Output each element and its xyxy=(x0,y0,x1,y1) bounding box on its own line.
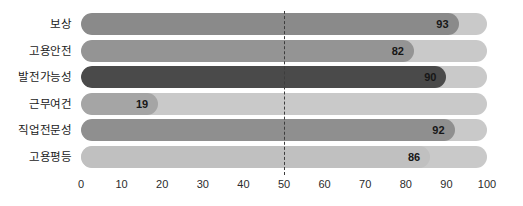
bar-fill xyxy=(81,66,446,88)
bar-rows-group: 보상93고용안전82발전가능성90근무여건19직업전문성92고용평등86 xyxy=(0,13,523,173)
x-tick-label: 20 xyxy=(142,176,182,192)
x-tick-label: 60 xyxy=(305,176,345,192)
x-tick-label: 10 xyxy=(102,176,142,192)
x-tick-label: 100 xyxy=(467,176,507,192)
x-tick-label: 70 xyxy=(345,176,385,192)
x-tick-label: 30 xyxy=(183,176,223,192)
x-tick-label: 0 xyxy=(61,176,101,192)
x-tick-label: 50 xyxy=(264,176,304,192)
bar-fill xyxy=(81,146,430,168)
bar-row: 고용안전82 xyxy=(0,40,523,62)
category-label: 고용안전 xyxy=(0,40,72,62)
bar-value-label: 82 xyxy=(372,40,404,62)
bar-fill xyxy=(81,40,414,62)
x-tick-label: 40 xyxy=(223,176,263,192)
bar-value-label: 86 xyxy=(388,146,420,168)
bar-value-label: 93 xyxy=(417,13,449,35)
category-label: 직업전문성 xyxy=(0,119,72,141)
bar-row: 직업전문성92 xyxy=(0,119,523,141)
bar-value-label: 90 xyxy=(404,66,436,88)
reference-line-50 xyxy=(284,11,285,175)
x-axis: 0102030405060708090100 xyxy=(0,176,523,200)
x-tick-label: 80 xyxy=(386,176,426,192)
bar-row: 발전가능성90 xyxy=(0,66,523,88)
category-label: 보상 xyxy=(0,13,72,35)
bar-value-label: 19 xyxy=(116,93,148,115)
bar-value-label: 92 xyxy=(413,119,445,141)
category-label: 발전가능성 xyxy=(0,66,72,88)
bar-row: 보상93 xyxy=(0,13,523,35)
category-label: 근무여건 xyxy=(0,93,72,115)
bar-fill xyxy=(81,13,459,35)
bar-row: 고용평등86 xyxy=(0,146,523,168)
bar-fill xyxy=(81,119,455,141)
category-label: 고용평등 xyxy=(0,146,72,168)
bar-row: 근무여건19 xyxy=(0,93,523,115)
bar-chart: 보상93고용안전82발전가능성90근무여건19직업전문성92고용평등86 010… xyxy=(0,0,523,206)
x-tick-label: 90 xyxy=(426,176,466,192)
